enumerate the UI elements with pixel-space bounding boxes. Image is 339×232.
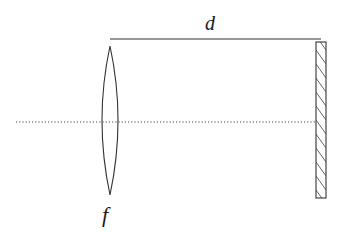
distance-label: d — [205, 12, 216, 34]
lens — [102, 46, 118, 195]
mirror — [316, 36, 326, 204]
focal-length-label: f — [102, 202, 111, 227]
mirror-hatching — [316, 36, 326, 204]
optics-diagram: d f — [0, 0, 339, 232]
